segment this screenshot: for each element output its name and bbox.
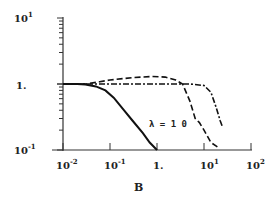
x-tick-label-10-minus2: 10-2 [56, 157, 78, 171]
x-tick-label-10-minus1: 10-1 [104, 157, 126, 171]
x-tick-label-10-2: 102 [246, 157, 265, 171]
y-ticks [57, 18, 63, 150]
lambda-annotation: λ = 1 0 [149, 119, 187, 129]
curve-dashed [63, 77, 218, 148]
x-axis-title: B [134, 181, 143, 194]
y-tick-label-10-minus1: 10-1 [14, 142, 36, 156]
curve-solid [63, 84, 157, 150]
chart: 101 1. 10-1 10-2 10-1 1. 101 102 B λ = 1… [0, 0, 278, 200]
x-tick-label-10-1: 101 [200, 157, 219, 171]
y-tick-label-1: 1. [16, 80, 26, 91]
x-tick-label-1: 1. [153, 160, 163, 171]
y-tick-label-10-1: 101 [14, 10, 33, 24]
